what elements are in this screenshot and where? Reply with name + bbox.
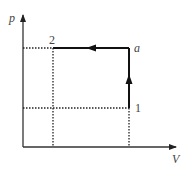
x-axis-label: V (172, 152, 181, 166)
arrow-up-icon (126, 74, 133, 84)
point-1-label: 1 (135, 101, 141, 115)
y-axis-label: p (8, 11, 15, 25)
process-path (53, 45, 133, 109)
point-2-label: 2 (49, 33, 55, 47)
axes (23, 15, 176, 147)
pv-diagram: p V 2 a 1 (0, 0, 189, 172)
arrow-left-icon (86, 45, 96, 52)
point-a-label: a (134, 41, 140, 55)
guide-lines (23, 48, 129, 147)
